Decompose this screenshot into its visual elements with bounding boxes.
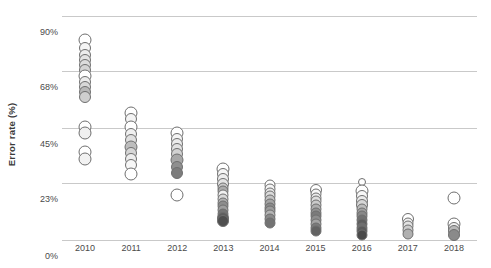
data-point [79,126,92,139]
gridline [62,240,477,241]
gridline [62,16,477,17]
x-axis-tick-label: 2012 [167,243,187,253]
data-point [217,215,229,227]
y-axis-tick-label: 45% [18,139,58,149]
x-axis-tick-label: 2011 [121,243,140,253]
x-axis-tick-label: 2010 [75,243,95,253]
y-axis-tick-label: 23% [18,194,58,204]
x-axis-tick-label: 2017 [398,243,418,253]
y-axis-tick-label: 0% [18,251,58,261]
data-point [448,229,460,241]
scatter-chart: Error rate (%) 90%68%45%23%0% 2010201120… [0,0,491,268]
data-point [264,217,275,228]
data-point [79,91,91,103]
plot-area [62,16,477,240]
data-point [402,228,413,239]
y-axis-tick-label: 90% [18,27,58,37]
data-point [310,226,321,237]
x-axis-tick-label: 2015 [306,243,326,253]
x-axis-tick-label: 2014 [259,243,279,253]
data-point [171,189,184,202]
gridline [62,71,477,72]
data-point [447,191,460,204]
data-point [171,167,183,179]
data-point [125,168,138,181]
data-point [79,153,92,166]
y-axis-tick-labels: 90%68%45%23%0% [12,16,58,240]
x-axis-tick-label: 2016 [352,243,372,253]
x-axis-tick-label: 2018 [444,243,464,253]
x-axis-tick-labels: 201020112012201320142015201620172018 [62,243,477,261]
data-point [356,230,367,241]
y-axis-tick-label: 68% [18,82,58,92]
x-axis-tick-label: 2013 [213,243,233,253]
